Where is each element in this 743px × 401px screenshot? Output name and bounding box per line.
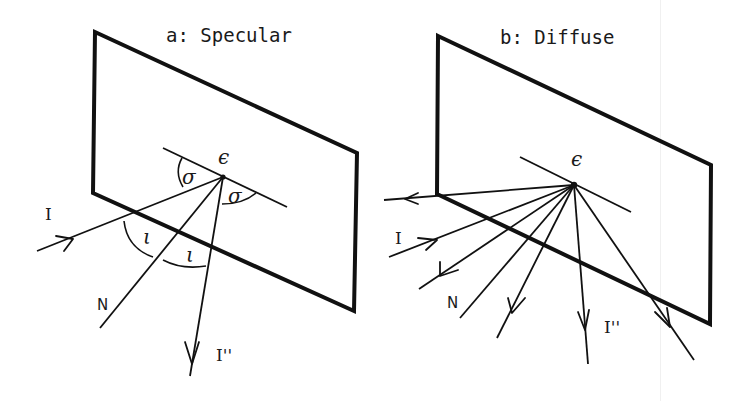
panel-b-title: b: Diffuse — [500, 26, 614, 48]
incidence-point — [220, 174, 225, 179]
label-reflected: I'' — [604, 317, 620, 337]
label-normal: N — [97, 296, 108, 314]
scattered-ray — [574, 185, 694, 360]
surface-plane — [93, 32, 357, 311]
label-epsilon: ϵ — [218, 145, 229, 169]
label-incident: I — [45, 204, 52, 224]
arrow-icon — [655, 308, 670, 327]
label-sigma-right: σ — [228, 184, 243, 208]
panel-specular: a: Specular ϵ σ σ ι ι I N I'' — [37, 24, 357, 376]
scattered-ray — [384, 185, 574, 200]
incidence-point — [571, 182, 577, 188]
label-incident: I — [395, 228, 402, 248]
label-sigma-left: σ — [182, 165, 197, 189]
arrow-icon — [56, 236, 73, 251]
panel-a-title: a: Specular — [166, 24, 292, 46]
reflection-figure: a: Specular ϵ σ σ ι ι I N I'' b: Diff — [0, 0, 743, 401]
label-normal: N — [447, 294, 458, 312]
panel-diffuse: b: Diffuse ϵ I N I'' — [384, 26, 711, 364]
angle-arc-iota-right — [163, 260, 206, 267]
label-reflected: I'' — [216, 345, 232, 365]
normal-line — [100, 177, 223, 328]
surface-plane — [437, 36, 711, 324]
label-iota-left: ι — [143, 225, 151, 249]
reflected-ray — [574, 185, 588, 364]
label-iota-right: ι — [186, 243, 194, 267]
label-epsilon: ϵ — [571, 147, 582, 171]
